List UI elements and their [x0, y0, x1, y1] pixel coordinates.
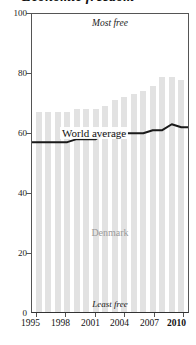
y-tick-label-80: 80 — [1, 69, 27, 78]
x-tick-label-2007: 2007 — [140, 318, 159, 328]
chart-title: Economic freedom — [22, 0, 134, 5]
x-tick-mark-2001 — [95, 313, 96, 317]
x-tick-label-1998: 1998 — [51, 318, 70, 328]
x-tick-label-2010: 2010 — [167, 318, 186, 328]
y-tick-label-40: 40 — [1, 189, 27, 198]
chart-figure: Economic freedom 100 80 60 40 20 0 Most … — [0, 0, 196, 345]
x-tick-label-2001: 2001 — [81, 318, 100, 328]
y-tick-label-0: 0 — [1, 309, 27, 318]
y-tick-label-60: 60 — [1, 129, 27, 138]
y-tick-label-100: 100 — [1, 9, 27, 18]
plot-area: Most free Least free World average Denma… — [31, 13, 189, 313]
x-tick-mark-2004 — [124, 313, 125, 317]
plot-inner: Most free Least free World average Denma… — [32, 14, 188, 312]
x-tick-mark-1995 — [36, 313, 37, 317]
world-average-line — [32, 124, 188, 142]
x-tick-label-2004: 2004 — [110, 318, 129, 328]
chart-title-clipped: Economic freedom — [0, 0, 196, 5]
world-average-line-overlay — [32, 14, 188, 312]
y-tick-label-20: 20 — [1, 249, 27, 258]
x-tick-mark-1998 — [65, 313, 66, 317]
x-tick-label-1995: 1995 — [21, 318, 40, 328]
x-tick-mark-2007 — [154, 313, 155, 317]
x-tick-mark-2010 — [183, 313, 184, 317]
